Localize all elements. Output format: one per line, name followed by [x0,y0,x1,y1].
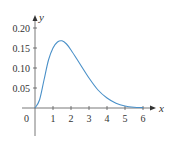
y-ticks: 0.050.100.150.20 [13,23,38,94]
y-axis: y [33,11,45,136]
y-axis-arrow-icon [33,15,38,21]
x-tick-label: 6 [141,113,146,124]
y-tick-label: 0.05 [13,83,31,94]
x-tick-label: 5 [123,113,128,124]
x-tick-label: 1 [51,113,56,124]
x-tick-label: 2 [69,113,74,124]
x-tick-label: 3 [87,113,92,124]
x-axis-label: x [158,102,164,114]
x-axis-arrow-icon [150,106,156,111]
x-tick-label: 4 [105,113,110,124]
x-ticks: 123456 [51,106,146,124]
y-axis-label: y [38,11,44,23]
y-tick-label: 0.10 [13,63,31,74]
y-tick-label: 0.20 [13,23,31,34]
chart: x y 123456 0.050.100.150.20 0 [0,0,176,144]
y-tick-label: 0.15 [13,43,31,54]
data-curve [35,41,143,108]
origin-label: 0 [24,113,29,124]
